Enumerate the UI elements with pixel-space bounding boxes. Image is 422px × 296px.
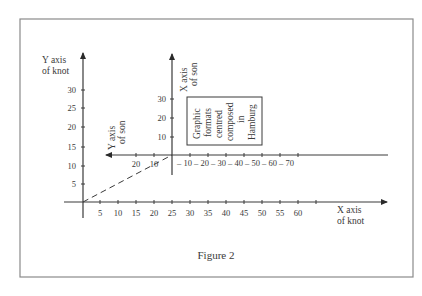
svg-text:of son: of son — [189, 62, 199, 86]
knot-x-tick: 55 — [276, 208, 285, 218]
knot-y-axis-label: Y axis — [42, 55, 66, 65]
knot-x-tick: 20 — [150, 208, 159, 218]
svg-text:Hamburg: Hamburg — [247, 104, 257, 140]
knot-y-tick: 5 — [72, 179, 76, 189]
knot-x-tick: 15 — [132, 208, 141, 218]
knot-y-axis-label: of knot — [42, 66, 70, 76]
knot-x-tick: 60 — [294, 208, 303, 218]
son-y-tick: 10 — [150, 159, 159, 169]
son-x-tick: 20 — [158, 113, 167, 123]
knot-x-axis-label: X axis — [337, 205, 362, 215]
knot-y-tick: 10 — [68, 161, 77, 171]
knot-x-tick: 25 — [168, 208, 177, 218]
knot-x-ticks: 5 10 15 20 25 30 35 40 45 50 55 60 — [98, 200, 316, 218]
knot-x-tick: 5 — [98, 208, 102, 218]
son-x-tick: 10 — [158, 132, 167, 142]
text-box-content: Graphic formats centred composed in Hamb… — [192, 102, 257, 141]
svg-text:formats: formats — [203, 108, 213, 137]
origin-link-dashed — [83, 155, 172, 202]
son-y-axis-label: Y axis of son — [107, 120, 127, 150]
knot-y-tick: 15 — [68, 142, 77, 152]
svg-text:composed: composed — [225, 102, 235, 141]
knot-x-axis-label: of knot — [337, 216, 365, 226]
svg-text:Graphic: Graphic — [192, 108, 202, 139]
figure-frame — [20, 19, 413, 277]
knot-x-tick: 35 — [204, 208, 213, 218]
knot-y-tick: 30 — [68, 85, 77, 95]
svg-text:X axis: X axis — [179, 67, 189, 92]
knot-x-tick: 50 — [258, 208, 267, 218]
figure-caption: Figure 2 — [198, 249, 235, 261]
svg-text:Y axis: Y axis — [107, 126, 117, 150]
knot-y-ticks: 5 10 15 20 25 30 — [68, 85, 86, 189]
son-y-tick: 20 — [132, 159, 141, 169]
svg-text:in: in — [236, 115, 246, 123]
knot-x-tick: 30 — [186, 208, 195, 218]
knot-x-tick: 40 — [222, 208, 231, 218]
svg-text:centred: centred — [214, 110, 224, 138]
knot-y-tick: 25 — [68, 103, 77, 113]
son-x-axis-label: X axis of son — [179, 62, 199, 92]
knot-x-tick: 45 — [240, 208, 249, 218]
knot-y-tick: 20 — [68, 122, 77, 132]
son-x-tick: 30 — [158, 94, 167, 104]
diagram-figure: 5 10 15 20 25 30 5 10 15 20 25 30 35 40 … — [0, 0, 422, 296]
knot-x-tick: 10 — [114, 208, 123, 218]
svg-text:of son: of son — [117, 120, 127, 144]
son-right-tick-labels: – 10 – 20 – 30 – 40 – 50 – 60 – 70 — [176, 158, 294, 168]
